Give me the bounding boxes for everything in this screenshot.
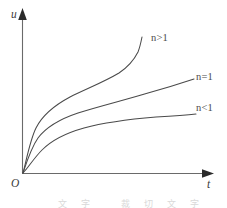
- series-label-n-less-than-1: n<1: [196, 102, 213, 113]
- y-axis-label: u: [11, 8, 17, 20]
- x-axis-arrow-icon: [202, 169, 214, 178]
- caption-text: 文字 裁切文字: [58, 197, 213, 208]
- series-label-n-equals-1: n=1: [196, 71, 213, 82]
- figure-container: u t O n>1 n=1 n<1 文字 裁切文字: [0, 0, 227, 208]
- curve-n-equals-1: [23, 79, 194, 173]
- y-axis-arrow-icon: [18, 8, 27, 20]
- curve-n-greater-than-1: [23, 37, 142, 173]
- curve-plot: u t O n>1 n=1 n<1: [0, 0, 227, 208]
- series-label-n-greater-than-1: n>1: [151, 32, 168, 43]
- caption-strip: 文字 裁切文字: [0, 196, 227, 208]
- x-axis-label: t: [207, 178, 211, 190]
- origin-label: O: [11, 177, 20, 189]
- curve-n-less-than-1: [23, 114, 196, 173]
